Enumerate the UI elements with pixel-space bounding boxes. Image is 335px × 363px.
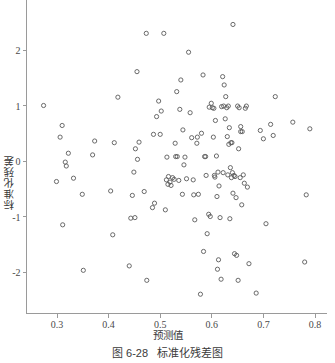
scatter-point xyxy=(223,117,227,121)
scatter-point xyxy=(179,78,183,82)
scatter-point xyxy=(41,103,45,107)
scatter-point xyxy=(116,95,120,99)
scatter-point xyxy=(91,153,95,157)
scatter-point xyxy=(145,278,149,282)
scatter-point xyxy=(157,99,161,103)
scatter-point xyxy=(191,178,195,182)
scatter-point xyxy=(162,31,166,35)
y-tick-label: -1 xyxy=(0,211,21,222)
scatter-point xyxy=(221,75,225,79)
scatter-point xyxy=(261,137,265,141)
scatter-point xyxy=(303,260,307,264)
scatter-point xyxy=(186,50,190,54)
scatter-point xyxy=(215,194,219,198)
scatter-point xyxy=(109,189,113,193)
y-tick-label: 2 xyxy=(0,45,21,56)
scatter-point xyxy=(291,120,295,124)
scatter-point xyxy=(258,128,262,132)
scatter-point xyxy=(217,184,221,188)
data-points xyxy=(41,22,311,296)
scatter-point xyxy=(175,90,179,94)
scatter-point xyxy=(178,107,182,111)
caption-number: 图 6-28 xyxy=(112,347,148,359)
scatter-point xyxy=(130,193,134,197)
scatter-point xyxy=(184,177,188,181)
scatter-point xyxy=(213,118,217,122)
scatter-point xyxy=(192,193,196,197)
y-tick-label: 1 xyxy=(0,100,21,111)
scatter-point xyxy=(111,233,115,237)
y-tick-label: -2 xyxy=(0,267,21,278)
scatter-point xyxy=(165,155,169,159)
scatter-point xyxy=(222,83,226,87)
scatter-point xyxy=(199,131,203,135)
scatter-point xyxy=(218,216,222,220)
scatter-point xyxy=(71,176,75,180)
scatter-point xyxy=(190,136,194,140)
scatter-point xyxy=(308,127,312,131)
scatter-point xyxy=(273,95,277,99)
scatter-point xyxy=(204,173,208,177)
scatter-point xyxy=(228,166,232,170)
scatter-point xyxy=(61,223,65,227)
scatter-point xyxy=(93,139,97,143)
scatter-point xyxy=(227,126,231,130)
scatter-point xyxy=(242,181,246,185)
scatter-point xyxy=(152,201,156,205)
scatter-point xyxy=(234,196,238,200)
scatter-point xyxy=(216,170,220,174)
x-axis-title: 预测值 xyxy=(0,327,335,342)
scatter-point xyxy=(221,171,225,175)
scatter-point xyxy=(231,22,235,26)
scatter-point xyxy=(180,192,184,196)
scatter-point xyxy=(135,157,139,161)
scatter-plot-area: 0.30.40.50.60.70.8 210-1-2 xyxy=(0,0,335,335)
scatter-point xyxy=(239,124,243,128)
scatter-point xyxy=(129,216,133,220)
scatter-point xyxy=(188,111,192,115)
scatter-point xyxy=(269,122,273,126)
scatter-point xyxy=(219,277,223,281)
scatter-point xyxy=(80,192,84,196)
scatter-point xyxy=(247,262,251,266)
scatter-point xyxy=(151,132,155,136)
scatter-point xyxy=(54,179,58,183)
scatter-point xyxy=(181,128,185,132)
scatter-point xyxy=(228,217,232,221)
scatter-point xyxy=(177,178,181,182)
scatter-point xyxy=(245,185,249,189)
plot-canvas xyxy=(0,0,335,335)
scatter-point xyxy=(144,31,148,35)
scatter-point xyxy=(201,249,205,253)
scatter-point xyxy=(132,170,136,174)
scatter-point xyxy=(193,218,197,222)
scatter-point xyxy=(183,155,187,159)
scatter-point xyxy=(215,267,219,271)
scatter-point xyxy=(271,133,275,137)
scatter-point xyxy=(238,176,242,180)
scatter-point xyxy=(173,141,177,145)
scatter-point xyxy=(158,132,162,136)
scatter-point xyxy=(224,95,228,99)
figure-container: 0.30.40.50.60.70.8 210-1-2 标准化残差 预测值 图 6… xyxy=(0,0,335,363)
scatter-point xyxy=(182,163,186,167)
scatter-point xyxy=(195,135,199,139)
scatter-point xyxy=(236,278,240,282)
figure-caption: 图 6-28标准化残差图 xyxy=(0,344,335,360)
scatter-point xyxy=(150,206,154,210)
scatter-point xyxy=(196,192,200,196)
scatter-point xyxy=(264,222,268,226)
scatter-point xyxy=(127,264,131,268)
caption-title: 标准化残差图 xyxy=(157,347,223,359)
scatter-point xyxy=(211,135,215,139)
scatter-point xyxy=(205,232,209,236)
scatter-point xyxy=(133,216,137,220)
scatter-point xyxy=(159,109,163,113)
scatter-point xyxy=(195,141,199,145)
scatter-point xyxy=(225,134,229,138)
scatter-point xyxy=(58,135,62,139)
scatter-point xyxy=(142,189,146,193)
scatter-point xyxy=(240,203,244,207)
scatter-point xyxy=(237,147,241,151)
scatter-point xyxy=(214,154,218,158)
